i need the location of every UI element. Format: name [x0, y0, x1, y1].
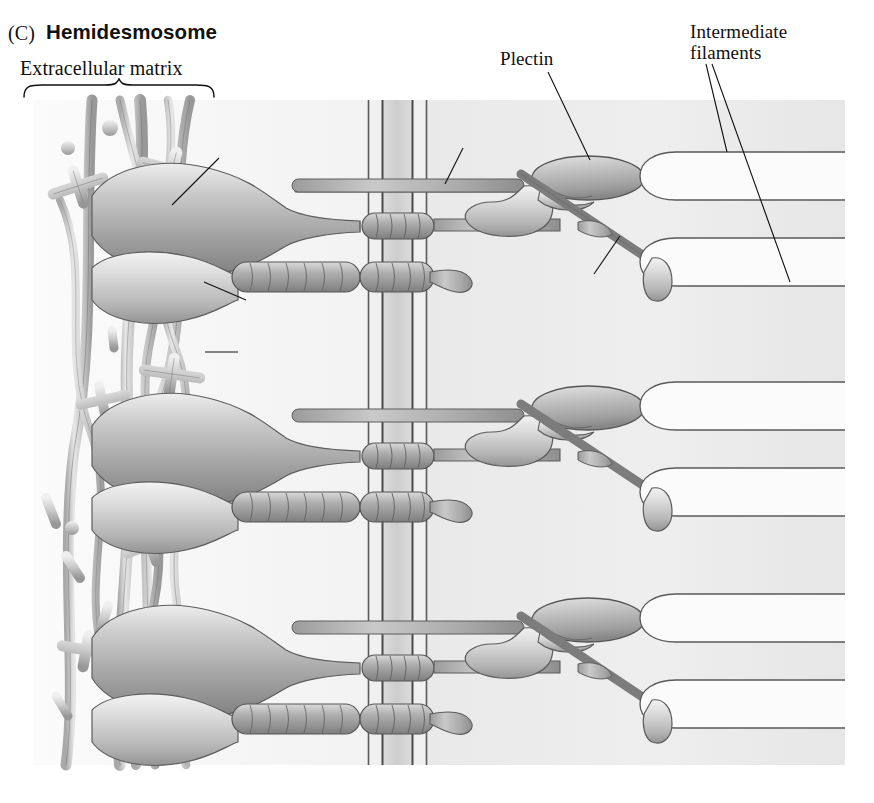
hemidesmosome-diagram	[0, 0, 874, 803]
beta4-transmembrane	[362, 213, 434, 239]
extracellular-matrix-brace	[24, 79, 214, 97]
hemidesmosome-figure: (C) Hemidesmosome Extracellular matrix β…	[0, 0, 874, 803]
